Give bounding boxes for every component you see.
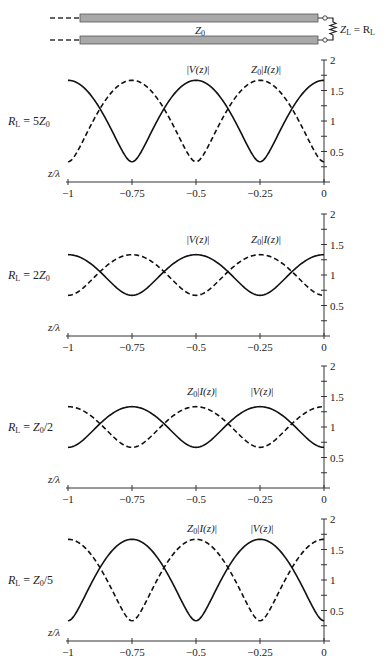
x-tick-label: 0: [321, 646, 327, 658]
y-tick-label: 1.5: [330, 85, 344, 97]
x-tick-label: −0.5: [186, 341, 206, 353]
voltage-curve: [68, 255, 324, 296]
top-conductor: [80, 14, 318, 22]
x-tick-label: −0.25: [247, 341, 273, 353]
svg-text:|V(z)|: |V(z)|: [187, 63, 210, 76]
y-tick-label: 2: [330, 360, 336, 372]
line-impedance-label: Z0: [195, 24, 205, 38]
current-curve: [68, 539, 324, 620]
y-tick-label: 0.5: [330, 300, 344, 312]
load-condition-label: RL = 5Z0: [7, 114, 50, 129]
x-tick-label: −1: [62, 646, 74, 658]
y-tick-label: 0.5: [330, 605, 344, 617]
chart-panel-2: −1−0.75−0.5−0.2500.511.52z/λ|V(z)|Z0|I(z…: [7, 208, 344, 353]
x-tick-label: 0: [321, 341, 327, 353]
current-curve: [68, 407, 324, 448]
current-curve: [68, 255, 324, 296]
x-tick-label: −1: [62, 341, 74, 353]
figure: Z0 ZL = RL −1−0.75−0.5−0.2500.511.52z/λ|…: [0, 0, 387, 666]
x-tick-label: −0.25: [247, 187, 273, 199]
x-tick-label: 0: [321, 493, 327, 505]
chart-panel-4: −1−0.75−0.5−0.2500.511.52z/λZ0|I(z)||V(z…: [7, 513, 344, 658]
x-tick-label: 0: [321, 187, 327, 199]
x-axis-label: z/λ: [47, 626, 60, 638]
svg-text:|V(z)|: |V(z)|: [251, 385, 274, 398]
y-tick-label: 1: [330, 574, 336, 586]
terminal-bottom: [323, 38, 327, 42]
x-tick-label: −0.25: [247, 493, 273, 505]
load-impedance-label: ZL = RL: [340, 23, 375, 37]
terminal-top: [323, 16, 327, 20]
y-tick-label: 1.5: [330, 544, 344, 556]
svg-text:Z0|I(z)|: Z0|I(z)|: [187, 385, 217, 399]
y-tick-label: 1: [330, 421, 336, 433]
x-tick-label: −0.5: [186, 493, 206, 505]
y-tick-label: 1: [330, 115, 336, 127]
x-tick-label: −0.5: [186, 187, 206, 199]
x-tick-label: −0.75: [119, 646, 145, 658]
svg-text:|V(z)|: |V(z)|: [187, 233, 210, 246]
x-tick-label: −0.75: [119, 341, 145, 353]
y-tick-label: 1.5: [330, 239, 344, 251]
load-condition-label: RL = Z0/2: [7, 420, 53, 435]
y-tick-label: 0.5: [330, 146, 344, 158]
y-tick-label: 0.5: [330, 452, 344, 464]
svg-text:Z0|I(z)|: Z0|I(z)|: [251, 63, 281, 77]
bottom-conductor: [80, 36, 318, 44]
x-tick-label: −0.5: [186, 646, 206, 658]
x-tick-label: −0.25: [247, 646, 273, 658]
x-axis-label: z/λ: [47, 473, 60, 485]
y-tick-label: 1: [330, 269, 336, 281]
x-axis-label: z/λ: [47, 167, 60, 179]
y-tick-label: 1.5: [330, 391, 344, 403]
x-tick-label: −0.75: [119, 187, 145, 199]
chart-panel-3: −1−0.75−0.5−0.2500.511.52z/λZ0|I(z)||V(z…: [7, 360, 344, 505]
svg-text:|V(z)|: |V(z)|: [251, 522, 274, 535]
y-tick-label: 2: [330, 54, 336, 66]
voltage-curve: [68, 407, 324, 448]
svg-text:Z0|I(z)|: Z0|I(z)|: [251, 233, 281, 247]
y-tick-label: 2: [330, 208, 336, 220]
x-axis-label: z/λ: [47, 321, 60, 333]
svg-text:Z0|I(z)|: Z0|I(z)|: [187, 522, 217, 536]
transmission-line-diagram: Z0 ZL = RL: [50, 14, 375, 44]
voltage-curve: [68, 80, 324, 161]
chart-panel-1: −1−0.75−0.5−0.2500.511.52z/λ|V(z)|Z0|I(z…: [7, 54, 344, 199]
x-tick-label: −1: [62, 493, 74, 505]
x-tick-label: −1: [62, 187, 74, 199]
load-condition-label: RL = 2Z0: [7, 268, 50, 283]
y-tick-label: 2: [330, 513, 336, 525]
x-tick-label: −0.75: [119, 493, 145, 505]
load-condition-label: RL = Z0/5: [7, 573, 53, 588]
load-resistor-icon: [327, 18, 336, 40]
